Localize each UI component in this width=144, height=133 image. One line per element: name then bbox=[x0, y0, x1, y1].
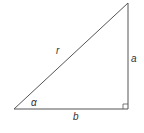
right-triangle-diagram bbox=[0, 0, 144, 133]
hypotenuse-r bbox=[14, 3, 128, 109]
label-side-a: a bbox=[131, 54, 137, 64]
right-angle-marker bbox=[123, 104, 128, 109]
label-side-b: b bbox=[73, 112, 79, 122]
label-hypotenuse: r bbox=[56, 46, 59, 56]
label-angle-alpha: α bbox=[31, 98, 37, 108]
